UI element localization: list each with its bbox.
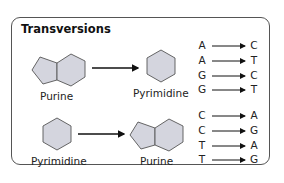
label-pyrimidine-bottom: Pyrimidine <box>31 155 87 167</box>
base-from: C <box>197 109 207 121</box>
base-to: T <box>249 83 259 95</box>
base-to: C <box>249 39 259 51</box>
base-arrows-bottom <box>212 116 245 160</box>
base-to: T <box>249 54 259 66</box>
base-from: T <box>197 139 207 151</box>
pyrimidine-structure-bottom <box>43 118 71 150</box>
base-arrows-top <box>212 46 245 90</box>
label-purine-bottom: Purine <box>140 155 173 167</box>
purine-structure-top <box>32 54 85 86</box>
base-to: C <box>249 69 259 81</box>
label-pyrimidine-top: Pyrimidine <box>133 87 189 99</box>
base-from: A <box>197 39 207 51</box>
base-from: G <box>197 83 207 95</box>
base-from: A <box>197 54 207 66</box>
base-from: G <box>197 69 207 81</box>
base-to: A <box>249 139 259 151</box>
base-from: C <box>197 124 207 136</box>
base-to: G <box>249 124 259 136</box>
base-from: T <box>197 153 207 165</box>
base-to: A <box>249 109 259 121</box>
base-to: G <box>249 153 259 165</box>
label-purine-top: Purine <box>40 90 73 102</box>
pyrimidine-structure-top <box>147 50 175 82</box>
purine-structure-bottom <box>130 119 183 151</box>
